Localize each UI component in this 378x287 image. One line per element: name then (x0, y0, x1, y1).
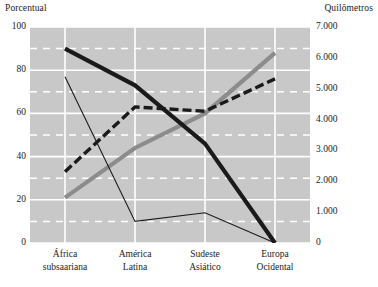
left-tick-label: 80 (17, 64, 27, 74)
right-tick-label: 5.000 (316, 83, 337, 93)
plot-canvas (30, 27, 310, 243)
category-label-line: subsaariana (43, 261, 87, 274)
series-line-serie-preta-fina (65, 77, 275, 243)
left-tick-label: 60 (17, 107, 27, 117)
right-tick-label: 3.000 (316, 144, 337, 154)
category-label-line: Latina (119, 261, 152, 274)
right-axis-title: Quilômetros (324, 3, 373, 13)
plot-area (30, 27, 310, 243)
series-line-serie-preta-pontilhada (65, 79, 275, 172)
category-label: EuropaOcidental (257, 248, 294, 273)
right-tick-label: 4.000 (316, 114, 337, 124)
right-tick-label: 0 (316, 237, 321, 247)
left-tick-label: 40 (17, 151, 27, 161)
right-tick-label: 2.000 (316, 175, 337, 185)
category-label-line: América (119, 248, 152, 261)
category-label: SudesteAsiático (189, 248, 221, 273)
category-label-line: Ocidental (257, 261, 294, 274)
category-label: AméricaLatina (119, 248, 152, 273)
category-label-line: Sudeste (189, 248, 221, 261)
category-label: Áfricasubsaariana (43, 248, 87, 273)
category-label-line: África (43, 248, 87, 261)
left-axis-title: Porcentual (5, 3, 47, 13)
left-tick-label: 100 (12, 21, 26, 31)
chart-root: Porcentual Quilômetros 020406080100 01.0… (0, 0, 378, 287)
left-tick-label: 0 (21, 237, 26, 247)
right-tick-label: 7.000 (316, 21, 337, 31)
category-label-line: Asiático (189, 261, 221, 274)
left-tick-label: 20 (17, 194, 27, 204)
series-line-serie-cinza-grossa (65, 53, 275, 198)
right-tick-label: 1.000 (316, 206, 337, 216)
category-label-line: Europa (257, 248, 294, 261)
right-tick-label: 6.000 (316, 52, 337, 62)
